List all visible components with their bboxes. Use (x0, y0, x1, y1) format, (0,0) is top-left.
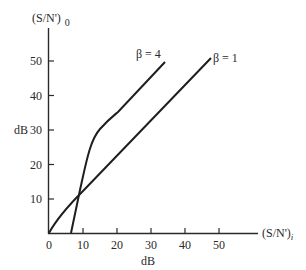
y-tick-label: 30 (30, 123, 42, 137)
series-beta-1 (49, 58, 211, 233)
y-tick-label: 10 (30, 192, 42, 206)
x-tick-label: 20 (111, 238, 123, 252)
label-beta-1: β = 1 (213, 51, 238, 65)
x-tick-label: 10 (77, 238, 89, 252)
y-unit-label: dB (14, 123, 28, 137)
x-unit-label: dB (141, 254, 155, 268)
label-beta-4: β = 4 (136, 47, 161, 61)
series-beta-4 (71, 62, 165, 233)
chart: 10 20 30 40 50 dB 0 10 20 30 40 50 dB (S… (0, 0, 306, 270)
y-tick-label: 40 (30, 89, 42, 103)
x-tick-label: 40 (179, 238, 191, 252)
x-tick-label: 50 (213, 238, 225, 252)
y-tick-label: 50 (30, 54, 42, 68)
x-tick-label: 30 (145, 238, 157, 252)
y-tick-label: 20 (30, 158, 42, 172)
x-axis-title: (S/N')i (262, 226, 294, 242)
x-tick-label: 0 (46, 238, 52, 252)
y-axis-title: (S/N')0 (32, 11, 70, 28)
